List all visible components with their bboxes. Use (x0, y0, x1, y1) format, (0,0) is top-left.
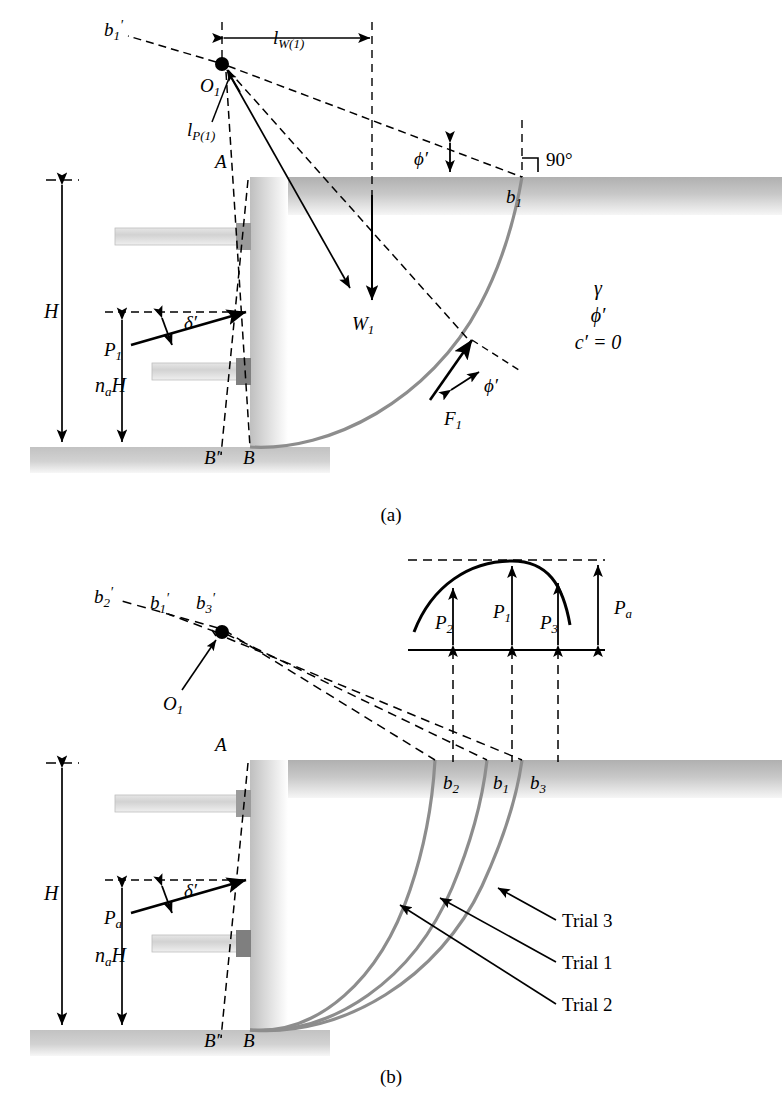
center-point-o1-b (215, 625, 229, 639)
label-phi-top-a: ϕ′ (414, 148, 429, 169)
label-naH-a: naH (95, 374, 128, 399)
figure-container: b1′ O1 lW(1) lP(1) A 90° b1 ϕ′ ϕ′ W1 F1 … (0, 0, 782, 1110)
soil-property-gamma-a: γ (594, 277, 603, 300)
label-90-degrees-a: 90° (546, 149, 573, 170)
label-delta-a: δ′ (184, 312, 198, 333)
label-trial1-b: Trial 1 (562, 952, 613, 973)
ground-strip-a (30, 447, 330, 473)
ground-strip-b (30, 1030, 330, 1056)
wall-body-a (250, 177, 288, 455)
label-trial2-b: Trial 2 (562, 994, 613, 1015)
soil-property-c-a: c′ = 0 (575, 331, 622, 353)
label-naH-b: naH (95, 944, 128, 969)
center-point-o1-a (215, 57, 229, 71)
label-B-b: B (243, 1030, 255, 1051)
label-phi-f1-a: ϕ′ (484, 375, 499, 396)
caption-b: (b) (380, 1066, 402, 1088)
label-point-A-a: A (213, 151, 227, 172)
label-delta-b: δ′ (184, 880, 198, 901)
label-H-a: H (43, 300, 60, 322)
soil-property-phi-a: ϕ′ (591, 304, 606, 327)
label-trial3-b: Trial 3 (562, 910, 613, 931)
engineering-diagram: b1′ O1 lW(1) lP(1) A 90° b1 ϕ′ ϕ′ W1 F1 … (0, 0, 782, 1110)
caption-a: (a) (380, 504, 401, 526)
label-H-b: H (43, 882, 60, 904)
label-B-a: B (243, 447, 255, 468)
label-point-A-b: A (213, 734, 227, 755)
label-B-prime-a: B′ (204, 447, 221, 468)
label-B-prime-b: B′ (204, 1030, 221, 1051)
wall-body-b (250, 760, 288, 1038)
